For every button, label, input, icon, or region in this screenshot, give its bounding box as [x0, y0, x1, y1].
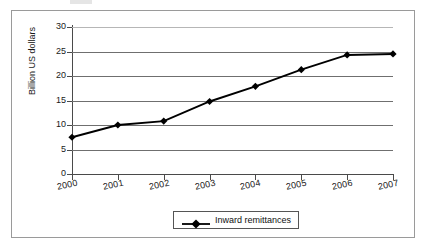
chart-figure: Billion US dollars 051015202530 Inward r… — [0, 0, 429, 249]
data-point-2007 — [389, 50, 396, 57]
y-tick-mark-30 — [67, 27, 72, 28]
diamond-marker-icon — [181, 215, 211, 225]
y-tick-mark-25 — [67, 52, 72, 53]
y-tick-mark-20 — [67, 76, 72, 77]
data-point-2001 — [114, 121, 121, 128]
data-point-2005 — [298, 66, 305, 73]
y-tick-mark-10 — [67, 125, 72, 126]
data-point-2004 — [252, 83, 259, 90]
legend-entry-label: Inward remittances — [215, 215, 291, 225]
data-point-2006 — [344, 51, 351, 58]
y-tick-mark-5 — [67, 150, 72, 151]
data-point-2003 — [206, 98, 213, 105]
chart-legend[interactable]: Inward remittances — [173, 211, 299, 229]
data-point-2000 — [68, 134, 75, 141]
data-point-2002 — [160, 117, 167, 124]
y-tick-mark-15 — [67, 101, 72, 102]
